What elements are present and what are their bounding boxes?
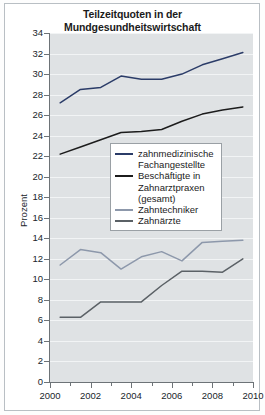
y-tick-mark xyxy=(44,156,49,157)
x-tick-mark-major xyxy=(131,383,132,388)
y-tick-mark xyxy=(44,238,49,239)
y-tick-mark xyxy=(44,95,49,96)
x-tick-label: 2004 xyxy=(111,391,151,401)
chart-title-line-1: Teilzeitquoten in der xyxy=(10,8,255,21)
y-tick-mark xyxy=(44,300,49,301)
y-tick-mark xyxy=(44,197,49,198)
y-tick-label: 32 xyxy=(17,49,43,59)
legend-item: Beschäftigte in Zahnarztpraxen (gesamt) xyxy=(114,170,217,204)
chart-legend: zahnmedizinische FachangestellteBeschäft… xyxy=(110,143,222,231)
y-tick-mark xyxy=(44,136,49,137)
y-tick-mark xyxy=(44,54,49,55)
y-tick-mark xyxy=(44,361,49,362)
legend-item: Zahnärzte xyxy=(114,215,217,226)
y-tick-mark xyxy=(44,33,49,34)
y-tick-label: 34 xyxy=(17,28,43,38)
y-tick-label: 30 xyxy=(17,69,43,79)
legend-item: zahnmedizinische Fachangestellte xyxy=(114,148,217,170)
x-tick-mark-major xyxy=(91,383,92,388)
y-tick-mark xyxy=(44,279,49,280)
x-tick-label: 2008 xyxy=(192,391,232,401)
x-tick-mark-major xyxy=(253,383,254,388)
series-line xyxy=(60,240,243,269)
x-tick-mark-minor xyxy=(233,383,234,386)
x-tick-label: 2000 xyxy=(30,391,70,401)
y-tick-label: 8 xyxy=(17,295,43,305)
legend-swatch-line-icon xyxy=(114,171,134,181)
x-tick-mark-major xyxy=(172,383,173,388)
y-tick-mark xyxy=(44,115,49,116)
y-tick-label: 24 xyxy=(17,131,43,141)
chart-figure: Teilzeitquoten in der Mundgesundheitswir… xyxy=(0,0,265,415)
x-tick-mark-major xyxy=(50,383,51,388)
x-tick-mark-major xyxy=(212,383,213,388)
y-tick-mark xyxy=(44,218,49,219)
y-tick-label: 6 xyxy=(17,315,43,325)
y-tick-mark xyxy=(44,259,49,260)
series-line xyxy=(60,53,243,103)
legend-swatch-line-icon xyxy=(114,205,134,215)
y-tick-label: 22 xyxy=(17,151,43,161)
y-tick-label: 12 xyxy=(17,254,43,264)
y-tick-label: 0 xyxy=(17,377,43,387)
y-tick-label: 2 xyxy=(17,356,43,366)
x-tick-mark-minor xyxy=(111,383,112,386)
legend-label: Beschäftigte in Zahnarztpraxen (gesamt) xyxy=(138,170,205,204)
y-tick-label: 10 xyxy=(17,274,43,284)
legend-label: Zahnärzte xyxy=(138,215,181,226)
x-tick-mark-minor xyxy=(70,383,71,386)
y-tick-mark xyxy=(44,74,49,75)
x-tick-label: 2010 xyxy=(233,391,265,401)
y-tick-label: 28 xyxy=(17,90,43,100)
x-tick-mark-minor xyxy=(152,383,153,386)
y-tick-mark xyxy=(44,177,49,178)
legend-swatch-line-icon xyxy=(114,216,134,226)
chart-title-line-2: Mundgesundheitswirtschaft xyxy=(10,21,255,34)
series-line xyxy=(60,259,243,318)
legend-item: Zahntechniker xyxy=(114,204,217,215)
legend-label: zahnmedizinische Fachangestellte xyxy=(138,148,214,170)
y-tick-mark xyxy=(44,341,49,342)
y-axis-line xyxy=(49,33,50,383)
x-tick-mark-minor xyxy=(192,383,193,386)
y-tick-label: 4 xyxy=(17,336,43,346)
chart-title: Teilzeitquoten in der Mundgesundheitswir… xyxy=(10,8,255,33)
legend-swatch-line-icon xyxy=(114,149,134,159)
y-axis-title: Prozent xyxy=(18,171,29,251)
x-tick-label: 2002 xyxy=(71,391,111,401)
y-tick-mark xyxy=(44,320,49,321)
x-tick-label: 2006 xyxy=(152,391,192,401)
y-tick-label: 26 xyxy=(17,110,43,120)
y-tick-mark xyxy=(44,382,49,383)
legend-label: Zahntechniker xyxy=(138,204,198,215)
